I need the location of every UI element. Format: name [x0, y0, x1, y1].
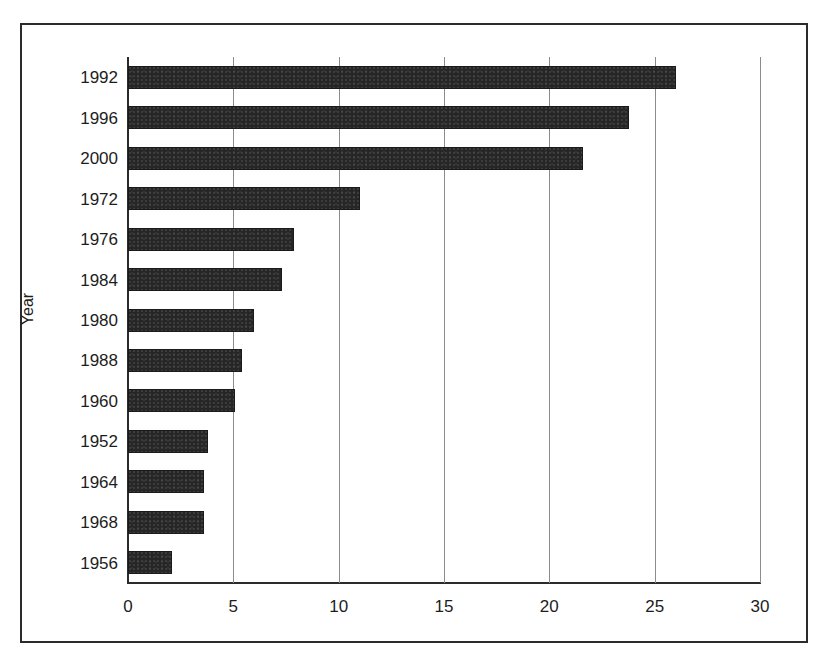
y-tick-label-1972: 1972	[0, 191, 118, 208]
bar-1964	[128, 470, 204, 493]
x-tick-label-5: 5	[203, 598, 263, 615]
gridline-x-30	[760, 57, 761, 583]
y-axis-tick-labels: 1992199620001972197619841980198819601952…	[0, 0, 118, 665]
x-tick-label-10: 10	[309, 598, 369, 615]
x-tick-label-20: 20	[519, 598, 579, 615]
bar-2000	[128, 147, 583, 170]
y-tick-label-1964: 1964	[0, 474, 118, 491]
y-tick-label-1976: 1976	[0, 231, 118, 248]
bar-1984	[128, 268, 282, 291]
gridline-x-25	[655, 57, 656, 583]
y-tick-label-1960: 1960	[0, 393, 118, 410]
bar-1952	[128, 430, 208, 453]
y-tick-label-1956: 1956	[0, 555, 118, 572]
bar-1968	[128, 511, 204, 534]
y-axis-title: Year	[19, 269, 37, 349]
x-tick-label-30: 30	[730, 598, 790, 615]
x-tick-label-15: 15	[414, 598, 474, 615]
y-tick-label-1984: 1984	[0, 272, 118, 289]
bar-1960	[128, 389, 235, 412]
y-tick-label-1968: 1968	[0, 514, 118, 531]
y-tick-label-1992: 1992	[0, 69, 118, 86]
bar-1976	[128, 228, 294, 251]
y-tick-label-1988: 1988	[0, 352, 118, 369]
bar-1996	[128, 106, 629, 129]
x-tick-label-25: 25	[625, 598, 685, 615]
bar-1980	[128, 309, 254, 332]
bar-1972	[128, 187, 360, 210]
y-tick-label-1952: 1952	[0, 433, 118, 450]
y-tick-label-1980: 1980	[0, 312, 118, 329]
gridline-x-15	[444, 57, 445, 583]
plot-area	[128, 57, 760, 583]
y-tick-label-1996: 1996	[0, 110, 118, 127]
gridline-x-10	[339, 57, 340, 583]
y-tick-label-2000: 2000	[0, 150, 118, 167]
bar-1992	[128, 66, 676, 89]
bar-1988	[128, 349, 242, 372]
bar-chart-figure: 1992199620001972197619841980198819601952…	[0, 0, 829, 665]
bar-1956	[128, 551, 172, 574]
gridline-x-20	[549, 57, 550, 583]
x-tick-label-0: 0	[98, 598, 158, 615]
